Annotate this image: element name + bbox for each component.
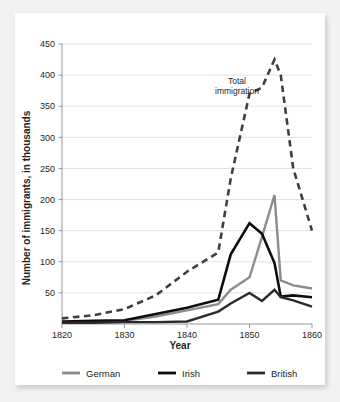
y-tick-label-50: 50 (45, 288, 55, 298)
chart-card: 50100150200250300350400450 1820183018401… (15, 13, 325, 385)
y-tick-label-200: 200 (40, 195, 55, 205)
y-tick-label-100: 100 (40, 257, 55, 267)
x-tick-label-1860: 1860 (302, 330, 322, 340)
legend-label-german: German (86, 368, 120, 379)
x-axis-title: Year (169, 340, 190, 351)
immigration-line-chart: 50100150200250300350400450 1820183018401… (15, 13, 325, 385)
y-tick-label-350: 350 (40, 101, 55, 111)
legend-label-british: British (271, 368, 297, 379)
annotation-total-immigration-line1: Total (228, 76, 246, 86)
legend-item-british: British (247, 368, 297, 379)
chart-legend: GermanIrishBritish (62, 368, 297, 379)
y-tick-label-400: 400 (40, 70, 55, 80)
legend-item-german: German (62, 368, 120, 379)
y-axis-title: Number of immigrants, in thousands (21, 110, 32, 285)
gridlines-group (62, 44, 312, 293)
legend-item-irish: Irish (158, 368, 200, 379)
legend-label-irish: Irish (182, 368, 200, 379)
x-tick-label-1850: 1850 (239, 330, 259, 340)
chart-annotations-group: Totalimmigration (215, 76, 259, 96)
annotation-total-immigration-line2: immigration (215, 86, 259, 96)
y-tick-label-300: 300 (40, 133, 55, 143)
series-line-german (62, 195, 312, 322)
series-line-british (62, 290, 312, 323)
y-tick-label-150: 150 (40, 226, 55, 236)
y-axis-tick-labels: 50100150200250300350400450 (40, 39, 62, 298)
data-series-group (62, 60, 312, 323)
x-tick-label-1840: 1840 (177, 330, 197, 340)
x-tick-label-1820: 1820 (52, 330, 72, 340)
y-tick-label-250: 250 (40, 164, 55, 174)
x-axis-tick-labels: 18201830184018501860 (52, 324, 322, 340)
x-tick-label-1830: 1830 (114, 330, 134, 340)
y-tick-label-450: 450 (40, 39, 55, 49)
axes-group (62, 44, 312, 324)
series-line-total-immigration (62, 60, 312, 319)
